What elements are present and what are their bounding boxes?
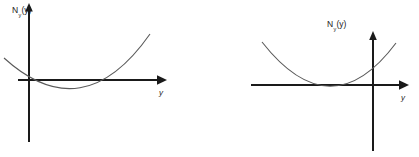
left-horizontal-axis-arrow-icon [157, 75, 167, 85]
right-horizontal-axis-arrow-icon [399, 80, 409, 90]
left-vertical-axis-label-argument: (y) [22, 5, 32, 15]
right-parabola-curve [262, 42, 396, 86]
chart-panel-right: N y (y) y [210, 0, 419, 157]
right-vertical-axis-label-main: N [327, 19, 333, 29]
left-vertical-axis-label-main: N [12, 5, 18, 15]
left-horizontal-axis-label: y [158, 88, 164, 97]
right-horizontal-axis-label: y [400, 93, 406, 102]
right-vertical-axis-label-argument: (y) [337, 19, 347, 29]
chart-panel-left: N y (y) y [0, 0, 210, 157]
right-vertical-axis-arrow-icon [369, 31, 377, 40]
figure-container: N y (y) y N y (y) y [0, 0, 419, 157]
